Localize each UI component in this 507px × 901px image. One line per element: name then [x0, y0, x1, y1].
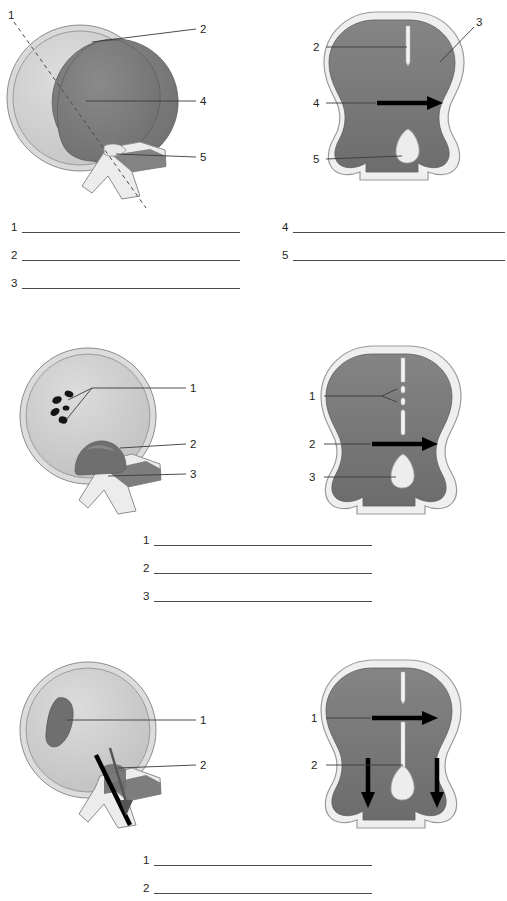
callout-label-4: 4 [200, 95, 207, 107]
answer-write-line[interactable] [22, 278, 240, 289]
vertical-fissure-lower [401, 722, 405, 770]
callout-label-2: 2 [313, 41, 319, 53]
answer-write-line[interactable] [22, 250, 240, 261]
answer-number: 2 [11, 250, 22, 261]
callout-label-4: 4 [313, 97, 320, 109]
vertical-fissure [401, 672, 405, 704]
answer-row[interactable]: 2 [143, 883, 372, 894]
callout-label-5: 5 [200, 151, 206, 163]
figure-eye-sagittal-crescent: 1 2 [0, 650, 260, 850]
figure-eye-sagittal-normal: 1 2 4 5 [0, 0, 260, 215]
answer-number: 1 [143, 855, 154, 866]
callout-label-2: 2 [309, 438, 315, 450]
callout-label-3: 3 [476, 16, 482, 28]
answer-number: 2 [143, 563, 154, 574]
callout-label-1: 1 [200, 714, 206, 726]
figure-eye-frontal-deposits: 1 2 3 [280, 330, 507, 530]
interior-chamber [329, 20, 455, 172]
callout-label-2: 2 [311, 759, 317, 771]
answer-number: 3 [11, 278, 22, 289]
answer-row[interactable]: 2 [143, 563, 372, 574]
figure-eye-frontal-normal: 2 3 4 5 [280, 0, 507, 215]
answer-row[interactable]: 1 [143, 855, 372, 866]
answer-write-line[interactable] [154, 883, 372, 894]
callout-label-5: 5 [313, 153, 319, 165]
interior-chamber [326, 354, 452, 506]
callout-label-1: 1 [309, 390, 315, 402]
answer-row[interactable]: 1 [143, 535, 372, 546]
answer-row[interactable]: 3 [11, 278, 240, 289]
figure-eye-sagittal-spots: 1 2 3 [0, 330, 260, 530]
answer-write-line[interactable] [293, 222, 505, 233]
callout-label-2: 2 [200, 23, 206, 35]
answer-write-line[interactable] [154, 591, 372, 602]
answer-write-line[interactable] [22, 222, 240, 233]
answer-number: 3 [143, 591, 154, 602]
callout-label-3: 3 [190, 468, 196, 480]
answer-row[interactable]: 2 [11, 250, 240, 261]
callout-label-2: 2 [200, 759, 206, 771]
answer-number: 5 [282, 250, 293, 261]
callout-label-2: 2 [190, 438, 196, 450]
answer-number: 1 [11, 222, 22, 233]
callout-label-1: 1 [311, 712, 317, 724]
answer-row[interactable]: 3 [143, 591, 372, 602]
figure-eye-frontal-downward-flow: 1 2 [280, 650, 507, 850]
answer-row[interactable]: 1 [11, 222, 240, 233]
answer-write-line[interactable] [154, 563, 372, 574]
answer-write-line[interactable] [293, 250, 505, 261]
answer-number: 2 [143, 883, 154, 894]
answer-row[interactable]: 5 [282, 250, 505, 261]
answer-number: 4 [282, 222, 293, 233]
answer-row[interactable]: 4 [282, 222, 505, 233]
answer-write-line[interactable] [154, 535, 372, 546]
callout-label-1: 1 [8, 9, 14, 21]
answer-number: 1 [143, 535, 154, 546]
callout-label-1: 1 [190, 382, 196, 394]
callout-label-3: 3 [309, 471, 315, 483]
answer-write-line[interactable] [154, 855, 372, 866]
upper-fissure [406, 26, 410, 66]
